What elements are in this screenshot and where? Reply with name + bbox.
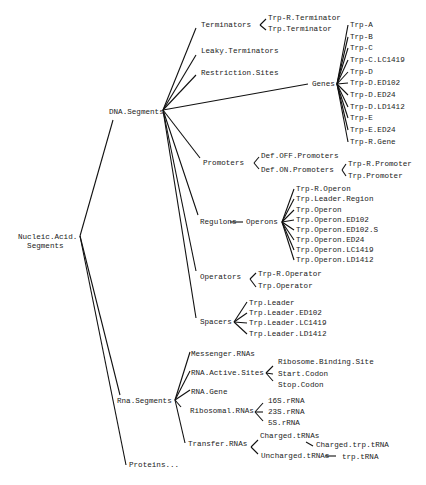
tree-edge [254,163,259,169]
tree-node-spacers: Spacers [200,318,232,327]
tree-diagram: Nucleic.Acid. SegmentsDNA.SegmentsRna.Se… [0,0,426,485]
tree-node-operons: Operons [246,218,278,227]
tree-node-regulons: Regulons [200,218,236,227]
tree-edge [337,83,348,84]
tree-edge [254,157,259,163]
tree-node-g10: Trp-E.ED24 [350,126,396,135]
tree-edge [163,28,196,110]
tree-node-r23: 23S.rRNA [268,408,304,417]
tree-edge [342,170,346,176]
tree-node-proteins: Proteins... [129,461,179,470]
tree-node-g11: Trp-R.Gene [350,138,396,147]
tree-edge [163,110,200,158]
tree-edge [163,110,196,271]
tree-node-trp_oper: Trp.Operator [258,282,313,291]
tree-node-ctrp: Charged.trp.tRNA [316,441,389,450]
tree-node-dna: DNA.Segments [109,108,164,117]
tree-node-rgene: RNA.Gene [191,388,227,397]
tree-edge [282,222,294,260]
tree-node-o4: Trp.Operon.ED102 [296,216,369,225]
tree-node-r16: 16S.rRNA [268,397,304,406]
tree-edge [234,322,247,323]
tree-edge [234,302,247,322]
tree-node-o6: Trp.Operon.ED24 [296,236,364,245]
tree-edge [260,19,266,25]
tree-node-g8: Trp-D.LD1412 [350,103,405,112]
tree-node-g7: Trp-D.ED24 [350,91,396,100]
tree-node-defon: Def.ON.Promoters [261,166,334,175]
tree-node-g4: Trp-C.LC1419 [350,56,405,65]
tree-node-trpr_oper: Trp-R.Operator [258,270,322,279]
tree-node-o7: Trp.Operon.LC1419 [296,246,373,255]
tree-node-g1: Trp-A [350,21,373,30]
tree-node-root: Nucleic.Acid. Segments [18,233,77,251]
tree-node-rbs: Ribosome.Binding.Site [278,358,374,367]
tree-edge [234,313,247,322]
tree-edge [251,440,258,447]
tree-edge [80,236,126,465]
tree-node-stop: Stop.Codon [278,381,324,390]
tree-node-genes: Genes [312,80,335,89]
tree-edge [250,273,256,279]
tree-node-r5: 5S.rRNA [268,419,300,428]
tree-node-trna: Transfer.RNAs [188,440,247,449]
tree-node-o5: Trp.Operon.ED102.S [296,226,378,235]
tree-node-trp_prom: Trp.Promoter [348,172,403,181]
tree-edge [342,164,346,170]
tree-node-trpr_prom: Trp-R.Promoter [348,160,412,169]
tree-node-rrna: Ribosomal.RNAs [190,407,254,416]
tree-edge [80,236,120,395]
tree-node-s3: Trp.Leader.LC1419 [249,319,326,328]
tree-node-leaky: Leaky.Terminators [201,47,278,56]
tree-edge [260,25,266,30]
tree-node-g6: Trp-D.ED102 [350,79,400,88]
tree-node-o8: Trp.Operon.LD1412 [296,256,373,265]
tree-node-prom: Promoters [203,159,244,168]
tree-node-g9: Trp-E [350,114,373,123]
tree-node-s2: Trp.Leader.ED102 [249,309,322,318]
tree-node-mrna: Messenger.RNAs [191,350,255,359]
tree-edge [163,55,196,110]
tree-node-o2: Trp.Leader.Region [296,195,373,204]
tree-edge [255,412,263,421]
tree-edge [163,110,198,215]
tree-node-g2: Trp-B [350,33,373,42]
tree-node-rna: Rna.Segments [117,397,172,406]
tree-edge [163,110,196,318]
tree-node-start: Start.Codon [278,370,328,379]
tree-edge [282,199,294,222]
tree-edge [337,60,348,84]
tree-node-s4: Trp.Leader.LD1412 [249,330,326,339]
tree-node-g5: Trp-D [350,68,373,77]
tree-node-trptrna: trp.tRNA [342,453,378,462]
tree-node-ctrna: Charged.tRNAs [260,432,319,441]
tree-node-utrna: Uncharged.tRNAs [261,452,329,461]
tree-node-restr: Restriction.Sites [201,69,278,78]
tree-edge [250,279,256,287]
tree-node-ras: RNA.Active.Sites [191,369,264,378]
tree-edge [306,442,313,446]
tree-edge [163,84,308,110]
tree-node-term: Terminators [201,21,251,30]
tree-edge [80,120,113,236]
tree-node-oper: Operators [200,273,241,282]
tree-node-trp_term: Trp.Terminator [268,25,332,34]
tree-node-g3: Trp-C [350,44,373,53]
tree-edge [282,189,294,222]
tree-node-o1: Trp-R.Operon [296,185,351,194]
tree-node-defoff: Def.OFF.Promoters [261,152,338,161]
tree-node-o3: Trp.Operon [296,206,342,215]
tree-edge [266,366,273,373]
tree-edge [234,322,247,334]
tree-node-trpr_term: Trp-R.Terminator [268,14,341,23]
tree-node-s1: Trp.Leader [249,299,295,308]
tree-edge [251,447,258,454]
tree-edge [255,403,263,412]
